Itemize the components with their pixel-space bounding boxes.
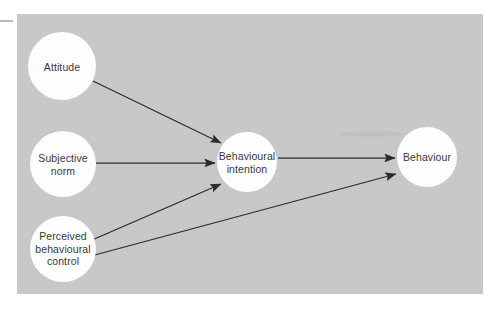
node-perceived-behavioural-control	[30, 216, 96, 282]
node-behavioural-intention	[217, 132, 277, 192]
diagram-figure: Attitude Subjective norm Perceived behav…	[0, 0, 500, 311]
node-behaviour	[397, 127, 457, 187]
node-subjective-norm	[30, 131, 96, 197]
edge-pbc-to-intention	[92, 184, 221, 240]
diagram-canvas	[0, 0, 500, 311]
node-attitude	[28, 32, 96, 100]
node-group	[28, 32, 457, 282]
edge-attitude-to-intention	[93, 81, 221, 143]
